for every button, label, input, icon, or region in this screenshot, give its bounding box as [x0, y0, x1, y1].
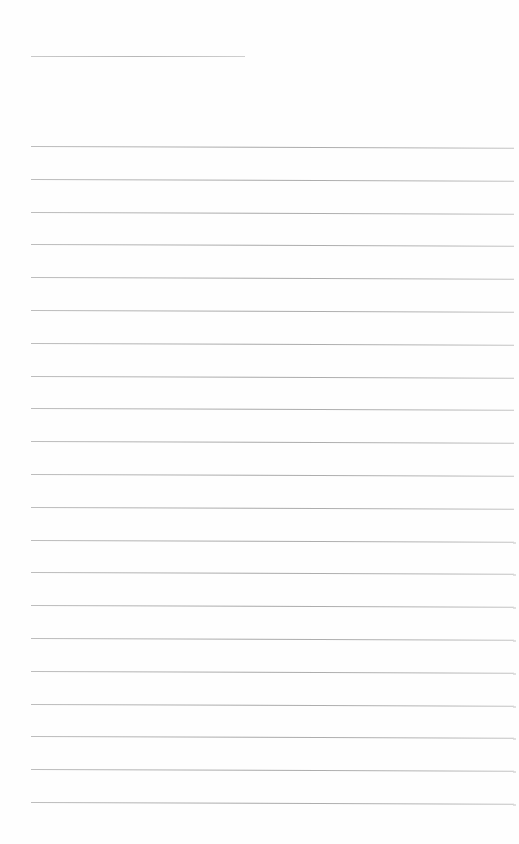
page-edge-mark	[513, 771, 516, 773]
page-edge-mark	[513, 738, 516, 740]
ruled-line	[31, 474, 514, 477]
page-edge-mark	[513, 706, 516, 708]
ruled-line	[31, 671, 514, 674]
ruled-line	[31, 146, 514, 149]
ruled-line	[31, 179, 514, 182]
ruled-line	[31, 736, 514, 739]
ruled-paper-page	[0, 0, 519, 844]
ruled-line	[31, 376, 514, 379]
ruled-line	[31, 408, 514, 411]
page-edge-mark	[513, 673, 516, 675]
ruled-line	[31, 277, 514, 280]
ruled-line	[31, 802, 514, 805]
ruled-line	[31, 244, 514, 247]
page-edge-mark	[513, 607, 516, 609]
header-name-line	[31, 56, 245, 57]
ruled-line	[31, 507, 514, 510]
ruled-line	[31, 638, 514, 641]
page-edge-mark	[513, 574, 516, 576]
page-edge-mark	[513, 542, 516, 544]
ruled-line	[31, 343, 514, 346]
ruled-line	[31, 769, 514, 772]
page-edge-mark	[513, 640, 516, 642]
page-edge-mark	[513, 804, 516, 806]
ruled-line	[31, 540, 514, 543]
ruled-line	[31, 441, 514, 444]
ruled-line	[31, 572, 514, 575]
ruled-line	[31, 605, 514, 608]
ruled-line	[31, 212, 514, 215]
ruled-line	[31, 704, 514, 707]
ruled-line	[31, 310, 514, 313]
